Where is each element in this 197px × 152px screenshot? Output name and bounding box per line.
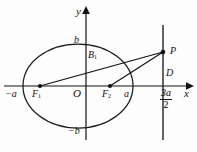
y-axis-arrow [82, 6, 90, 14]
label-x-axis: x [184, 88, 189, 99]
label-point-d: D [166, 68, 173, 78]
label-bottom-vertex: −b [68, 126, 80, 136]
label-y-axis: y [76, 6, 81, 17]
label-right-vertex: a [124, 89, 129, 99]
ellipse-diagram: y x O b −b −a a F1 F2 B1 P D 3a 2 [0, 0, 197, 152]
label-directrix-fraction: 3a 2 [160, 88, 172, 110]
label-focus-left: F1 [32, 89, 41, 99]
minor-point-subscript: 1 [94, 54, 97, 60]
point-p-dot [161, 50, 166, 55]
point-f2-dot [108, 84, 112, 88]
label-left-vertex: −a [5, 89, 17, 99]
label-origin: O [73, 88, 81, 99]
focus-right-subscript: 2 [108, 93, 111, 99]
label-minor-point: B1 [88, 50, 97, 60]
point-f1-dot [38, 84, 42, 88]
label-top-vertex: b [74, 35, 79, 45]
directrix-denominator: 2 [160, 100, 172, 110]
segment-f1-p [40, 52, 163, 86]
label-focus-right: F2 [102, 89, 111, 99]
focus-left-subscript: 1 [38, 93, 41, 99]
directrix-numerator: 3a [160, 88, 172, 98]
label-point-p: P [170, 46, 176, 56]
